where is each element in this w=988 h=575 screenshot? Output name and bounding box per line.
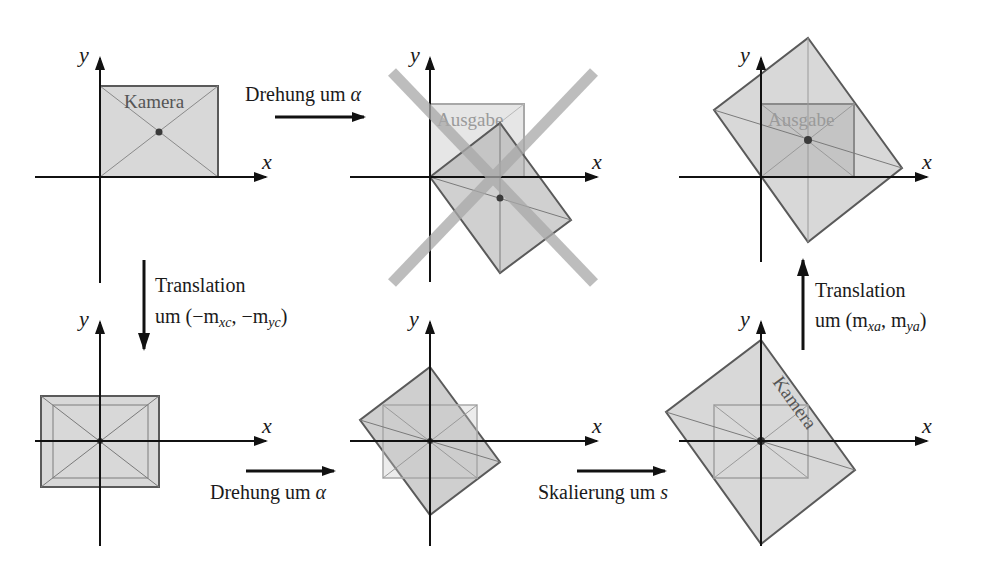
x-axis-label: x [921,413,932,438]
step-scaling: Skalierung um s [538,471,668,504]
panel-direct-rotation: Ausgabe x y [350,42,602,283]
y-axis-label: y [77,306,89,331]
top-rotation-label: Drehung um α [245,83,362,106]
output-label: Ausgabe [768,109,834,130]
panel-centered: x y [35,306,272,546]
panel-rotated: x y [350,306,602,546]
step-translate-output: Translation um (mxa, mya) [803,260,926,350]
translate-center-line1: Translation [155,274,245,296]
x-axis-label: x [591,413,602,438]
translate-output-line1: Translation [815,279,905,301]
x-axis-label: x [261,149,272,174]
step-translate-center: Translation um (−mxc, −myc) [144,260,287,349]
y-axis-label: y [738,306,750,331]
translate-center-line2: um (−mxc, −myc) [155,305,287,330]
center-dot [804,136,812,144]
y-axis-label: y [77,42,89,67]
transformation-diagram: x y Kamera Drehung um α Ausgabe x y Ausg… [0,0,988,575]
x-axis-label: x [591,149,602,174]
panel-final: Ausgabe x y [679,38,932,262]
panel-camera-original: x y Kamera [35,42,272,283]
translate-output-line2: um (mxa, mya) [815,309,926,334]
center-dot [497,195,504,202]
rotation-label: Drehung um α [210,481,327,504]
camera-label: Kamera [124,91,185,112]
step-top-rotation: Drehung um α [245,83,364,117]
y-axis-label: y [738,42,750,67]
y-axis-label: y [407,306,419,331]
x-axis-label: x [921,149,932,174]
y-axis-label: y [408,42,420,67]
x-axis-label: x [261,413,272,438]
scaling-label: Skalierung um s [538,481,668,504]
panel-scaled: x y Kamera [666,306,932,546]
step-rotation: Drehung um α [210,471,334,504]
center-dot [156,129,163,136]
